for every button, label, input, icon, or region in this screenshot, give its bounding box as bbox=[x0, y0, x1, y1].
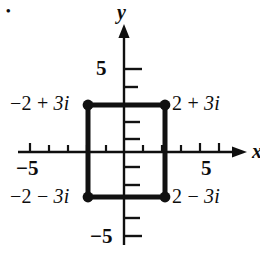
x-tick-label-negative-5: −5 bbox=[16, 158, 38, 179]
vertex-dot-top-right bbox=[160, 100, 171, 111]
x-tick-label-positive-5: 5 bbox=[201, 158, 212, 179]
vertex-label-bottom-left-operator: − bbox=[37, 185, 48, 207]
axes-and-shape-canvas bbox=[0, 0, 260, 253]
vertex-label-top-left: −2 + 3i bbox=[10, 93, 70, 113]
vertex-dot-bottom-left bbox=[83, 192, 94, 203]
x-axis-arrowhead bbox=[232, 146, 247, 157]
complex-plane-figure: • bbox=[0, 0, 260, 253]
vertex-label-bottom-right: 2 − 3i bbox=[172, 186, 220, 206]
vertex-label-top-left-operator: + bbox=[37, 92, 48, 114]
y-axis-label: y bbox=[117, 2, 126, 22]
x-axis-label: x bbox=[252, 141, 260, 161]
vertex-dot-top-left bbox=[83, 100, 94, 111]
vertex-label-bottom-left-real: −2 bbox=[10, 185, 32, 207]
vertex-label-top-right-imaginary: 3i bbox=[204, 92, 220, 114]
y-tick-label-negative-5: −5 bbox=[90, 226, 112, 247]
vertex-label-top-left-real: −2 bbox=[10, 92, 32, 114]
vertex-dot-bottom-right bbox=[160, 192, 171, 203]
vertex-label-top-right: 2 + 3i bbox=[172, 93, 220, 113]
vertex-label-bottom-right-imaginary: 3i bbox=[204, 185, 220, 207]
vertex-label-top-right-real: 2 bbox=[172, 92, 182, 114]
vertex-label-top-left-imaginary: 3i bbox=[54, 92, 70, 114]
vertex-label-bottom-left-imaginary: 3i bbox=[54, 185, 70, 207]
vertex-label-bottom-left: −2 − 3i bbox=[10, 186, 70, 206]
vertex-label-bottom-right-real: 2 bbox=[172, 185, 182, 207]
vertex-label-bottom-right-operator: − bbox=[187, 185, 198, 207]
y-axis-arrowhead bbox=[118, 24, 129, 38]
vertex-label-top-right-operator: + bbox=[187, 92, 198, 114]
y-tick-label-positive-5: 5 bbox=[96, 58, 107, 79]
